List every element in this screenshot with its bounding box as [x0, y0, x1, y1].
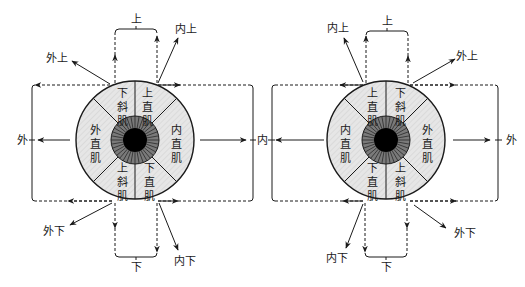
svg-text:斜: 斜 — [117, 176, 128, 189]
eye-muscle-diagram: 下 斜 肌 上 直 肌 外 直 肌 内 直 肌 上 斜 肌 下 直 肌 上 下 … — [0, 0, 525, 287]
right-eye: 上 直 肌 下 斜 肌 内 直 肌 外 直 肌 下 直 肌 上 斜 肌 上 下 … — [268, 15, 517, 274]
svg-text:肌: 肌 — [395, 190, 406, 203]
svg-text:肌: 肌 — [340, 152, 351, 165]
direction-label-right: 外 — [506, 134, 517, 147]
svg-text:肌: 肌 — [422, 152, 433, 165]
direction-label-up-left: 内上 — [327, 21, 349, 35]
right-pupil — [374, 128, 398, 152]
svg-text:直: 直 — [367, 100, 378, 114]
svg-text:肌: 肌 — [117, 115, 128, 128]
svg-text:直: 直 — [422, 137, 433, 151]
svg-text:肌: 肌 — [144, 190, 155, 203]
direction-label-down-left: 内下 — [326, 251, 348, 265]
muscle-label-upper-right: 下 — [395, 87, 406, 100]
direction-label-down-right: 内下 — [174, 254, 196, 268]
muscle-label-right: 外 — [422, 124, 433, 137]
muscle-label-lower-right: 上 — [395, 162, 406, 175]
svg-text:斜: 斜 — [395, 176, 406, 189]
direction-label-down-left: 外下 — [43, 225, 65, 238]
svg-text:肌: 肌 — [90, 152, 101, 165]
direction-label-left: 外 — [17, 134, 28, 147]
svg-text:肌: 肌 — [117, 190, 128, 203]
svg-text:肌: 肌 — [171, 152, 182, 165]
muscle-label-left: 内 — [340, 123, 351, 137]
svg-text:直: 直 — [90, 137, 101, 151]
svg-text:肌: 肌 — [367, 115, 378, 128]
muscle-label-right: 内 — [171, 123, 182, 137]
svg-text:肌: 肌 — [142, 115, 153, 128]
direction-label-up: 上 — [382, 15, 393, 28]
svg-text:肌: 肌 — [395, 115, 406, 128]
muscle-label-lower-left: 下 — [367, 162, 378, 175]
svg-text:肌: 肌 — [367, 190, 378, 203]
muscle-label-upper-left: 上 — [367, 87, 378, 100]
direction-label-down: 下 — [381, 261, 392, 274]
direction-label-up-left: 外上 — [46, 52, 68, 65]
direction-label-down-right: 外下 — [454, 227, 476, 240]
svg-text:直: 直 — [367, 175, 378, 189]
left-pupil — [123, 128, 147, 152]
svg-text:直: 直 — [144, 175, 155, 189]
svg-text:直: 直 — [171, 137, 182, 151]
muscle-label-lower-right: 下 — [144, 162, 155, 175]
shared-center-label: 内 — [257, 133, 268, 147]
svg-text:斜: 斜 — [117, 101, 128, 114]
muscle-label-upper-left: 下 — [117, 87, 128, 100]
direction-label-down: 下 — [131, 261, 142, 274]
svg-text:直: 直 — [340, 137, 351, 151]
svg-text:斜: 斜 — [395, 101, 406, 114]
muscle-label-lower-left: 上 — [117, 162, 128, 175]
svg-text:直: 直 — [142, 100, 153, 114]
direction-label-up-right: 内上 — [175, 22, 197, 36]
direction-label-up: 上 — [131, 13, 142, 26]
muscle-label-left: 外 — [90, 124, 101, 137]
left-eye: 下 斜 肌 上 直 肌 外 直 肌 内 直 肌 上 斜 肌 下 直 肌 上 下 … — [17, 13, 257, 274]
direction-label-up-right: 外上 — [456, 50, 478, 63]
muscle-label-upper-right: 上 — [142, 87, 153, 100]
